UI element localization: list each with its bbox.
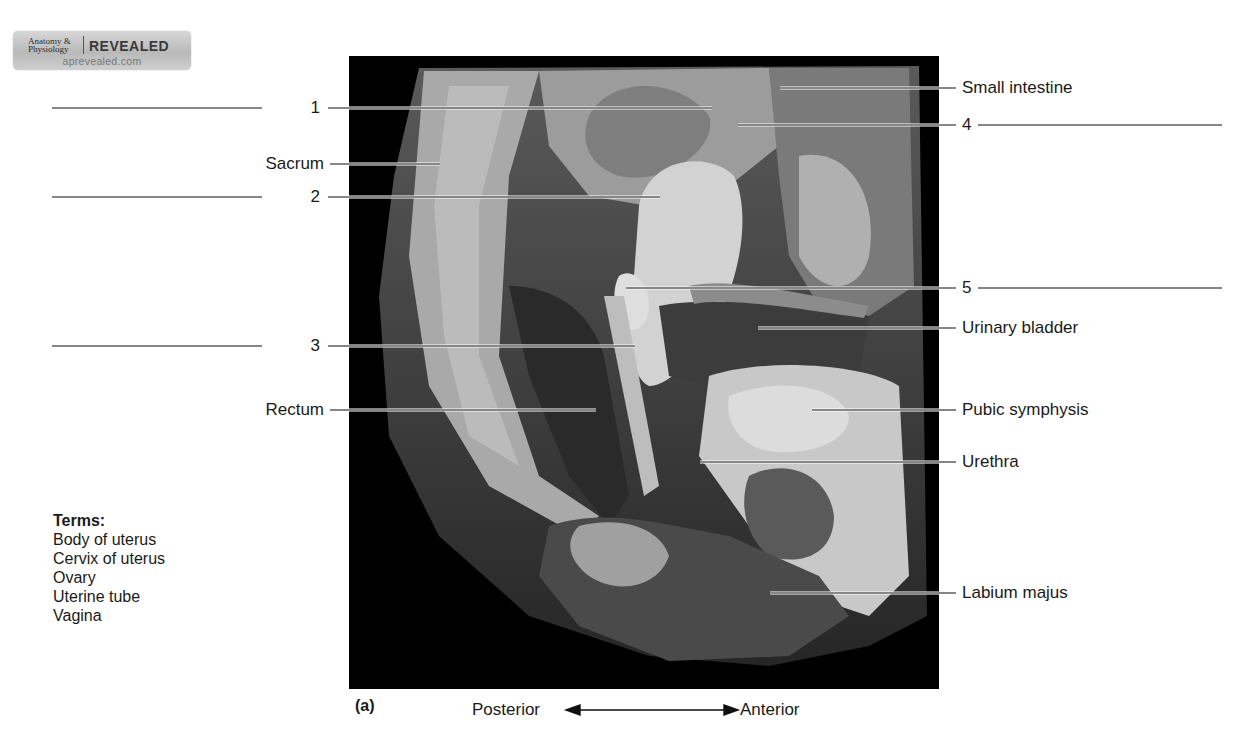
label-pubic-symphysis: Pubic symphysis xyxy=(962,400,1089,420)
orientation-anterior: Anterior xyxy=(740,700,800,720)
panel-label: (a) xyxy=(355,697,375,715)
term-item: Uterine tube xyxy=(53,587,165,606)
term-item: Cervix of uterus xyxy=(53,549,165,568)
label-rectum: Rectum xyxy=(200,400,324,420)
terms-title: Terms: xyxy=(53,512,165,530)
label-number-2: 2 xyxy=(311,187,320,206)
term-item: Ovary xyxy=(53,568,165,587)
label-blank-5: 5 xyxy=(962,278,971,298)
label-sacrum: Sacrum xyxy=(200,154,324,174)
leader-lines xyxy=(0,0,1250,746)
label-blank-3: 3 xyxy=(240,336,320,356)
label-small-intestine: Small intestine xyxy=(962,78,1073,98)
label-number-1: 1 xyxy=(311,98,320,117)
label-urethra: Urethra xyxy=(962,452,1019,472)
label-blank-2: 2 xyxy=(240,187,320,207)
label-labium-majus: Labium majus xyxy=(962,583,1068,603)
terms-list: Terms: Body of uterus Cervix of uterus O… xyxy=(53,512,165,625)
term-item: Body of uterus xyxy=(53,530,165,549)
label-urinary-bladder: Urinary bladder xyxy=(962,318,1078,338)
posterior-anterior-arrow xyxy=(566,705,738,715)
label-blank-1: 1 xyxy=(240,98,320,118)
term-item: Vagina xyxy=(53,606,165,625)
label-blank-4: 4 xyxy=(962,115,971,135)
orientation-posterior: Posterior xyxy=(472,700,540,720)
label-number-3: 3 xyxy=(311,336,320,355)
